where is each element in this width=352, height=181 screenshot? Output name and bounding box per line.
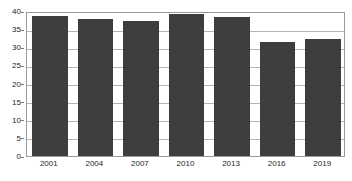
bar: [260, 42, 296, 156]
y-tick-label: 35: [12, 26, 21, 34]
bar: [32, 16, 68, 156]
x-tick-label: 2019: [313, 160, 331, 168]
y-tick-label: 20: [12, 81, 21, 89]
plot-area: [26, 12, 345, 157]
bar: [78, 19, 114, 156]
y-tick-label: 15: [12, 99, 21, 107]
y-tick-mark: [21, 120, 24, 121]
x-tick-label: 2010: [177, 160, 195, 168]
y-tick-label: 30: [12, 44, 21, 52]
y-tick-mark: [21, 102, 24, 103]
bars-layer: [27, 13, 344, 156]
x-tick-label: 2007: [131, 160, 149, 168]
y-tick-label: 10: [12, 117, 21, 125]
y-tick-mark: [21, 157, 24, 158]
y-tick-mark: [21, 30, 24, 31]
x-tick-label: 2001: [40, 160, 58, 168]
y-tick-mark: [21, 48, 24, 49]
y-tick-mark: [21, 66, 24, 67]
x-tick-label: 2004: [85, 160, 103, 168]
bar: [214, 17, 250, 156]
y-axis: 0510152025303540: [0, 12, 24, 157]
bar: [169, 14, 205, 156]
y-tick-label: 40: [12, 8, 21, 16]
bar-chart-figure: 0510152025303540 20012004200720102013201…: [0, 0, 352, 181]
y-tick-mark: [21, 84, 24, 85]
x-tick-label: 2016: [268, 160, 286, 168]
y-tick-label: 25: [12, 62, 21, 70]
bar: [305, 39, 341, 156]
x-tick-label: 2013: [222, 160, 240, 168]
y-tick-mark: [21, 12, 24, 13]
y-tick-mark: [21, 138, 24, 139]
bar: [123, 21, 159, 156]
x-axis: 2001200420072010201320162019: [26, 160, 345, 176]
